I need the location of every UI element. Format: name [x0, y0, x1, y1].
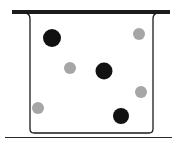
light-particle: [135, 86, 147, 98]
light-particle: [32, 102, 44, 114]
light-particle: [64, 62, 76, 74]
container-lid: [12, 10, 170, 14]
dark-particle: [43, 29, 61, 47]
dark-particles: [43, 29, 129, 124]
dark-particle: [113, 108, 129, 124]
light-particle: [133, 28, 145, 40]
container-diagram: [0, 0, 176, 146]
dark-particle: [96, 63, 113, 80]
